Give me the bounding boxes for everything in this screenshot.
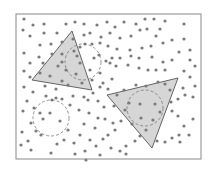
dot (122, 88, 125, 91)
dot (193, 84, 196, 87)
dot (139, 116, 142, 119)
dot (170, 109, 173, 112)
dot (154, 68, 157, 71)
dot (41, 117, 44, 120)
dot (188, 58, 191, 61)
dot (21, 109, 24, 112)
dot (113, 128, 116, 131)
dot (176, 97, 179, 100)
dot (22, 17, 25, 20)
dot (134, 22, 137, 25)
dot (86, 98, 89, 101)
dot (108, 61, 111, 64)
dot (22, 69, 25, 72)
dot (95, 23, 98, 26)
dot (20, 130, 23, 133)
dot (91, 91, 94, 94)
dot (161, 60, 164, 63)
dot (102, 105, 105, 108)
dot (144, 128, 147, 131)
dot (96, 99, 99, 102)
dot (115, 47, 118, 50)
dot (41, 61, 44, 64)
dot (54, 96, 57, 99)
dot (68, 103, 71, 106)
dot (38, 43, 41, 46)
dot (98, 85, 101, 88)
dot (98, 71, 101, 74)
dot (48, 111, 51, 114)
dot (28, 75, 31, 78)
dot (151, 118, 154, 121)
dot (44, 94, 47, 97)
dot (43, 84, 46, 87)
dot (60, 60, 63, 63)
dot (158, 110, 161, 113)
dot (22, 85, 25, 88)
dot (130, 122, 133, 125)
dot (153, 102, 156, 105)
dot (21, 28, 24, 31)
dot (54, 87, 57, 90)
diagram-canvas (0, 0, 215, 172)
dot (145, 27, 148, 30)
dot (163, 68, 166, 71)
dot (170, 136, 173, 139)
dot (188, 75, 191, 78)
dot (163, 82, 166, 85)
dot (115, 93, 118, 96)
dot (143, 17, 146, 20)
dot (163, 140, 166, 143)
dot (71, 37, 74, 40)
dot (34, 129, 37, 132)
dot (101, 137, 104, 140)
dot (188, 48, 191, 51)
dot (82, 95, 85, 98)
dot (106, 133, 109, 136)
dot (19, 143, 22, 146)
dot (92, 56, 95, 59)
dot (133, 139, 136, 142)
dot (60, 52, 63, 55)
dot (106, 87, 109, 90)
dot (88, 31, 91, 34)
dot (182, 22, 185, 25)
dot (138, 102, 141, 105)
dot (138, 28, 141, 31)
dot (56, 64, 59, 67)
dot (156, 80, 159, 83)
dot (82, 33, 85, 36)
dot (50, 52, 53, 55)
dot (99, 35, 102, 38)
dot (106, 44, 109, 47)
dot (154, 34, 157, 37)
dot (137, 56, 140, 59)
dot (129, 54, 132, 57)
dot (181, 86, 184, 89)
dot (129, 34, 132, 37)
dot (169, 100, 172, 103)
dot (118, 36, 121, 39)
dot (144, 84, 147, 87)
dot (42, 22, 45, 25)
dot (140, 46, 143, 49)
dot (128, 48, 131, 51)
dot (123, 108, 126, 111)
dot (42, 31, 45, 34)
dot (163, 19, 166, 22)
dot (105, 20, 108, 23)
dot (82, 22, 85, 25)
dot (150, 55, 153, 58)
dot (98, 41, 101, 44)
dot (78, 133, 81, 136)
dot (66, 128, 69, 131)
dot (124, 144, 127, 147)
dot (38, 111, 41, 114)
dot (168, 88, 171, 91)
dot (75, 54, 78, 57)
dot (77, 108, 80, 111)
dot (134, 83, 137, 86)
dot (137, 66, 140, 69)
dot (177, 50, 180, 53)
dot (177, 133, 180, 136)
